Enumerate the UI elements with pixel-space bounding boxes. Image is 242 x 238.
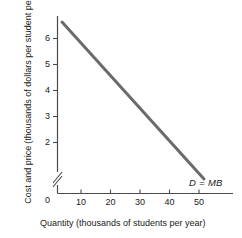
x-tick-label-50: 50: [190, 198, 208, 207]
demand-curve-label: D = MB: [189, 177, 223, 188]
chart-container: 6 5 4 3 2 0 10 20 30 40 50 Quantity (tho…: [0, 0, 242, 238]
x-tick-label-10: 10: [72, 198, 90, 207]
x-tick-label-40: 40: [161, 198, 179, 207]
x-tick-label-20: 20: [102, 198, 120, 207]
x-axis-title: Quantity (thousands of students per year…: [40, 218, 240, 228]
y-origin-label-0: 0: [36, 196, 50, 205]
demand-curve: [62, 22, 204, 179]
y-axis-title-line-1: Cost and price: [23, 146, 33, 204]
x-tick-label-30: 30: [131, 198, 149, 207]
y-axis-title-line-2: (thousands of dollars per student per ye…: [23, 0, 33, 144]
y-axis-title: Cost and price (thousands of dollars per…: [15, 0, 41, 179]
